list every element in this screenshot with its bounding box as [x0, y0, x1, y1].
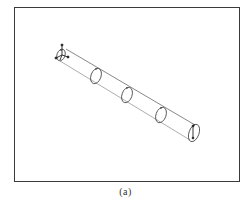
end-section-marker [192, 125, 194, 139]
section-node [95, 68, 97, 70]
tube-diagram [0, 0, 251, 211]
section-node [126, 87, 128, 89]
tube-bottom-edge [60, 61, 190, 140]
cross-sections [55, 48, 202, 143]
tube-top-edge [66, 49, 195, 125]
origin-axis-triad-icon [55, 44, 69, 60]
section-node [160, 107, 162, 109]
figure-caption: (a) [0, 186, 251, 197]
